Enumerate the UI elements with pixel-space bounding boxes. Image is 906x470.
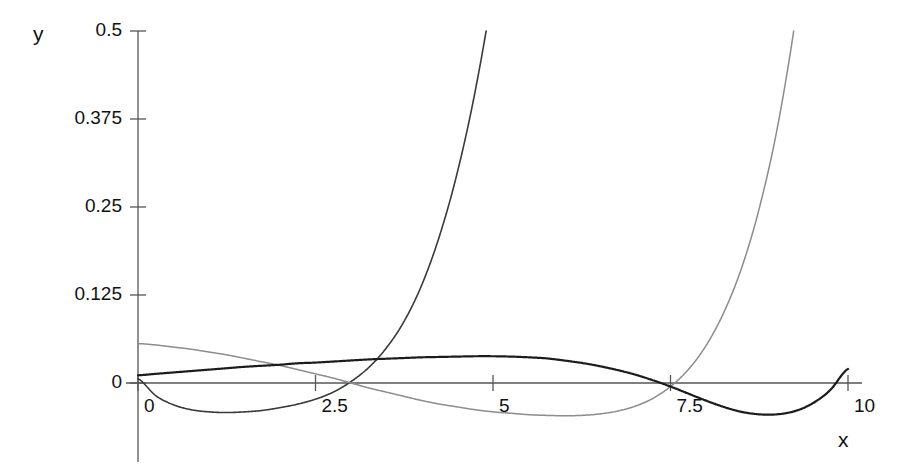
chart-figure: y x 00.1250.250.3750.5 02.557.510 <box>0 0 906 470</box>
y-tick-label-3: 0.375 <box>50 107 122 129</box>
x-tick-label-3: 7.5 <box>677 395 737 417</box>
series-group <box>138 31 848 416</box>
axes-group <box>126 31 862 462</box>
y-axis-label: y <box>33 22 44 46</box>
chart-plot-area <box>0 0 906 470</box>
x-tick-label-2: 5 <box>499 395 559 417</box>
x-axis-label: x <box>838 428 849 452</box>
y-tick-label-0: 0 <box>50 371 122 393</box>
x-tick-label-4: 10 <box>854 395 906 417</box>
y-tick-label-1: 0.125 <box>50 283 122 305</box>
x-tick-label-0: 0 <box>144 395 204 417</box>
x-tick-label-1: 2.5 <box>322 395 382 417</box>
data-curve-1 <box>138 31 794 416</box>
data-curve-0 <box>138 31 486 413</box>
y-tick-label-4: 0.5 <box>50 19 122 41</box>
y-tick-label-2: 0.25 <box>50 195 122 217</box>
